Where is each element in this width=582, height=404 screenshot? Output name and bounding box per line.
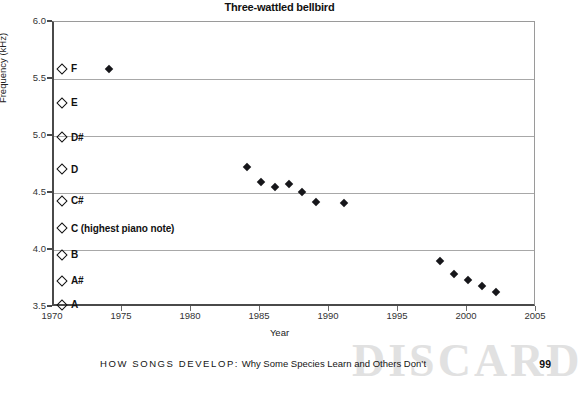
data-point — [464, 275, 472, 283]
y-axis-tick-label: 6.0 — [16, 15, 46, 26]
open-diamond-icon — [56, 97, 67, 108]
y-axis-tick-label: 4.0 — [16, 243, 46, 254]
note-marker-row: C# — [58, 195, 84, 207]
note-marker-label: D — [71, 164, 78, 175]
data-point — [312, 198, 320, 206]
x-axis-tick-label: 1985 — [248, 310, 269, 321]
y-axis-tick-mark — [47, 305, 52, 307]
note-marker-row: A — [58, 299, 78, 311]
data-point — [284, 180, 292, 188]
gridline — [54, 79, 534, 80]
open-diamond-icon — [56, 223, 67, 234]
gridline — [54, 136, 534, 137]
x-axis-tick-label: 2000 — [455, 310, 476, 321]
gridline — [54, 250, 534, 251]
note-marker-row: F — [58, 63, 77, 75]
data-point — [105, 64, 113, 72]
x-axis-tick-mark — [466, 306, 467, 311]
open-diamond-icon — [56, 195, 67, 206]
note-marker-row: D# — [58, 131, 84, 143]
y-axis-tick-mark — [47, 134, 52, 136]
note-marker-label: C (highest piano note) — [71, 223, 174, 234]
x-axis-tick-mark — [121, 306, 122, 311]
data-point — [491, 288, 499, 296]
x-axis-tick-label: 1990 — [317, 310, 338, 321]
data-point — [436, 257, 444, 265]
footer-title: Why Some Species Learn and Others Don’t — [242, 358, 426, 369]
x-axis-tick-label: 1970 — [41, 310, 62, 321]
gridline — [54, 193, 534, 194]
footer-caption: HOW SONGS DEVELOP: Why Some Species Lear… — [0, 358, 526, 369]
plot-area: FED#DC#C (highest piano note)BA#A — [52, 21, 535, 306]
x-axis-tick-label: 1995 — [386, 310, 407, 321]
note-marker-row: D — [58, 163, 78, 175]
page-number: 99 — [539, 358, 551, 370]
note-marker-label: D# — [71, 132, 84, 143]
y-axis-label: Frequency (kHz) — [0, 8, 8, 128]
note-marker-label: F — [71, 63, 77, 74]
note-marker-row: B — [58, 249, 78, 261]
note-marker-label: A# — [71, 275, 84, 286]
y-axis-tick-mark — [47, 248, 52, 250]
note-marker-label: C# — [71, 195, 84, 206]
x-axis-tick-mark — [535, 306, 536, 311]
y-axis-tick-mark — [47, 20, 52, 22]
data-point — [257, 177, 265, 185]
open-diamond-icon — [56, 299, 67, 310]
note-marker-label: B — [71, 249, 78, 260]
note-marker-label: E — [71, 97, 78, 108]
data-point — [271, 183, 279, 191]
open-diamond-icon — [56, 63, 67, 74]
x-axis-tick-mark — [328, 306, 329, 311]
open-diamond-icon — [56, 249, 67, 260]
x-axis-tick-label: 1980 — [179, 310, 200, 321]
page-footer: HOW SONGS DEVELOP: Why Some Species Lear… — [0, 358, 559, 378]
note-marker-row: C (highest piano note) — [58, 222, 174, 234]
open-diamond-icon — [56, 275, 67, 286]
note-marker-row: A# — [58, 275, 84, 287]
y-axis-tick-mark — [47, 77, 52, 79]
x-axis-tick-mark — [259, 306, 260, 311]
data-point — [340, 199, 348, 207]
note-marker-row: E — [58, 97, 78, 109]
x-axis-tick-mark — [190, 306, 191, 311]
footer-kicker: HOW SONGS DEVELOP: — [100, 358, 239, 369]
chart-title: Three-wattled bellbird — [0, 1, 559, 13]
open-diamond-icon — [56, 131, 67, 142]
x-axis-tick-label: 1975 — [110, 310, 131, 321]
y-axis-tick-mark — [47, 191, 52, 193]
data-point — [298, 188, 306, 196]
data-point — [478, 282, 486, 290]
y-axis-tick-label: 4.5 — [16, 186, 46, 197]
y-axis-tick-label: 5.0 — [16, 129, 46, 140]
y-axis-tick-label: 5.5 — [16, 72, 46, 83]
note-marker-label: A — [71, 299, 78, 310]
x-axis-tick-label: 2005 — [524, 310, 545, 321]
x-axis-label: Year — [0, 327, 559, 338]
x-axis-tick-mark — [397, 306, 398, 311]
data-point — [243, 163, 251, 171]
data-point — [450, 270, 458, 278]
open-diamond-icon — [56, 163, 67, 174]
